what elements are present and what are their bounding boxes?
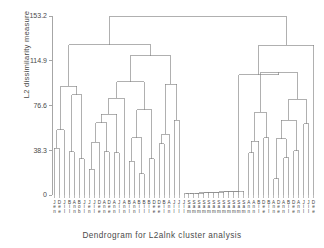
dendrogram-tree: [54, 16, 313, 195]
y-tick-label: 153.2: [29, 12, 47, 19]
x-axis-title: Dendrogram for L2alnk cluster analysis: [0, 231, 324, 240]
y-tick-label: 38.3: [33, 147, 47, 154]
leaf-tick-marks: [54, 195, 313, 198]
y-axis: 038.376.6114.9153.2: [29, 12, 52, 198]
y-axis-title: L2 dissimilarity measure: [22, 0, 31, 125]
y-tick-label: 76.6: [33, 102, 47, 109]
dendrogram-chart: L2 dissimilarity measure 038.376.6114.91…: [0, 0, 324, 248]
leaf-label-char: e: [310, 210, 318, 214]
leaf-label: Dee: [310, 201, 318, 214]
y-tick-label: 114.9: [30, 57, 47, 64]
y-tick-label: 0: [43, 191, 47, 198]
